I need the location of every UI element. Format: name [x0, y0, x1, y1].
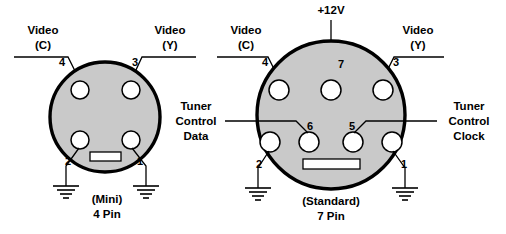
std-pin-6-hole [299, 132, 319, 152]
std-pin-5-hole [343, 132, 363, 152]
std-pin-3-hole [373, 80, 393, 100]
standard-caption-line1: (Standard) [302, 195, 360, 207]
std-video-c-label-line1: Video [230, 24, 261, 36]
mini-video-y-label-line1: Video [154, 24, 185, 36]
std-tuner-clock-label-line3: Clock [453, 130, 485, 142]
std-tuner-clock-label-line2: Control [449, 115, 490, 127]
mini-alignment-notch [90, 152, 121, 161]
std-video-c-label-line2: (C) [238, 39, 254, 51]
std-pin-4-hole [269, 80, 289, 100]
mini-video-c-label-line2: (C) [35, 39, 51, 51]
std-pin-4-number: 4 [262, 56, 269, 68]
mini-pin-3-hole [122, 81, 140, 99]
std-tuner-clock-label-line1: Tuner [453, 100, 485, 112]
mini-caption-line2: 4 Pin [93, 208, 120, 220]
diagram-canvas: 4 3 2 1 Video (C) Video (Y) (Mini) 4 Pin [0, 0, 506, 234]
mini-pin-1-number: 1 [137, 155, 143, 167]
standard-alignment-notch [303, 159, 360, 169]
mini-pin-1-hole [122, 131, 140, 149]
connector-pinout-diagram: 4 3 2 1 Video (C) Video (Y) (Mini) 4 Pin [0, 0, 506, 234]
std-pin-5-number: 5 [349, 120, 355, 132]
mini-pin-4-number: 4 [59, 56, 66, 68]
std-pin-6-number: 6 [307, 120, 313, 132]
mini-pin-2-hole [71, 131, 89, 149]
standard-caption-line2: 7 Pin [317, 210, 344, 222]
mini-video-y-label-line2: (Y) [162, 39, 178, 51]
std-pin-1-hole [382, 132, 402, 152]
std-tuner-data-label-line3: Data [184, 130, 210, 142]
std-pin-7-hole [321, 80, 341, 100]
std-pin-2-number: 2 [256, 158, 262, 170]
std-pin-2-hole [260, 132, 280, 152]
mini-4-pin-connector: 4 3 2 1 Video (C) Video (Y) (Mini) 4 Pin [14, 24, 196, 220]
std-pin-3-number: 3 [393, 56, 399, 68]
std-pin-1-number: 1 [401, 158, 407, 170]
std-pin-7-number: 7 [338, 58, 344, 70]
ground-symbol-std-pin1 [392, 188, 418, 200]
mini-pin-2-number: 2 [65, 155, 71, 167]
std-video-y-label-line1: Video [402, 24, 433, 36]
standard-7-pin-connector: 4 7 3 2 6 5 1 +12V Video (C) Video (Y) T… [176, 4, 490, 222]
std-video-y-label-line2: (Y) [410, 39, 426, 51]
mini-video-c-label-line1: Video [27, 24, 58, 36]
mini-caption-line1: (Mini) [92, 193, 123, 205]
std-tuner-data-label-line1: Tuner [180, 100, 212, 112]
std-plus-12v-label: +12V [317, 4, 345, 16]
ground-symbol-mini-pin1 [133, 186, 159, 198]
std-tuner-data-label-line2: Control [176, 115, 217, 127]
ground-symbol-std-pin2 [245, 188, 271, 200]
mini-pin-3-number: 3 [132, 56, 138, 68]
mini-pin-4-hole [71, 81, 89, 99]
ground-symbol-mini-pin2 [53, 186, 79, 198]
